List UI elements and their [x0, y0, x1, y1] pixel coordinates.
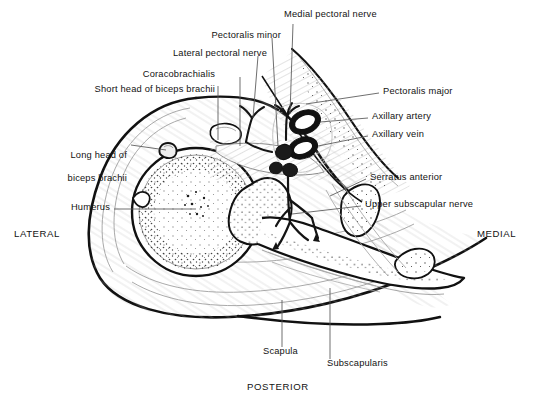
label-short-head-biceps: Short head of biceps brachii	[55, 84, 215, 96]
label-pectoralis-major: Pectoralis major	[383, 86, 503, 98]
label-coracobrachialis: Coracobrachialis	[115, 69, 215, 81]
label-medial-pectoral-nerve: Medial pectoral nerve	[284, 9, 414, 21]
label-axillary-vein: Axillary vein	[372, 129, 492, 141]
label-scapula: Scapula	[263, 346, 323, 358]
label-long-head-biceps-line1: Long head of	[70, 150, 127, 160]
orientation-posterior: POSTERIOR	[247, 381, 309, 392]
label-pectoralis-minor: Pectoralis minor	[191, 30, 281, 42]
label-subscapularis: Subscapularis	[327, 358, 417, 370]
label-serratus-anterior: Serratus anterior	[370, 172, 500, 184]
label-humerus: Humerus	[55, 202, 110, 214]
anatomical-figure: Short head of biceps brachii Coracobrach…	[0, 0, 541, 401]
orientation-lateral: LATERAL	[14, 228, 60, 239]
label-long-head-biceps-line2: biceps brachii	[68, 173, 127, 183]
label-upper-subscapular-nerve: Upper subscapular nerve	[365, 199, 530, 211]
orientation-medial: MEDIAL	[477, 228, 516, 239]
label-axillary-artery: Axillary artery	[372, 111, 492, 123]
label-long-head-biceps: Long head of biceps brachii	[42, 138, 127, 196]
label-lateral-pectoral-nerve: Lateral pectoral nerve	[147, 48, 267, 60]
